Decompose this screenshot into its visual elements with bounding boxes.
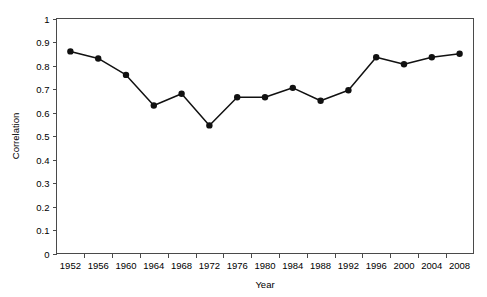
x-tick-label: 1972	[199, 260, 220, 271]
data-point	[456, 51, 462, 57]
x-tick-label: 1960	[115, 260, 136, 271]
x-tick-label: 2008	[449, 260, 470, 271]
y-tick-label: 0.4	[36, 155, 49, 166]
data-point	[178, 91, 184, 97]
x-tick-label: 1992	[338, 260, 359, 271]
x-tick-label: 1968	[171, 260, 192, 271]
chart-canvas: 00.10.20.30.40.50.60.70.80.91 1952195619…	[0, 0, 487, 297]
data-point	[401, 61, 407, 67]
y-tick-label: 0.7	[36, 84, 49, 95]
x-tick-label: 1956	[88, 260, 109, 271]
x-tick-label: 1988	[310, 260, 331, 271]
x-axis-title: Year	[255, 279, 274, 290]
data-point	[67, 48, 73, 54]
data-point	[317, 98, 323, 104]
x-axis-tick-labels: 1952195619601964196819721976198019841988…	[60, 260, 470, 271]
data-point	[123, 72, 129, 78]
data-point	[262, 94, 268, 100]
y-axis-title: Correlation	[10, 113, 21, 159]
x-tick-label: 1996	[366, 260, 387, 271]
data-point	[151, 102, 157, 108]
y-tick-label: 0.5	[36, 131, 49, 142]
y-tick-label: 1	[44, 14, 49, 25]
correlation-by-year-chart: 00.10.20.30.40.50.60.70.80.91 1952195619…	[0, 0, 487, 297]
chart-background	[0, 0, 487, 297]
data-point	[95, 55, 101, 61]
y-tick-label: 0.9	[36, 37, 49, 48]
y-tick-label: 0.1	[36, 225, 49, 236]
data-point	[373, 54, 379, 60]
data-point	[429, 54, 435, 60]
y-tick-label: 0.6	[36, 108, 49, 119]
x-tick-label: 2004	[421, 260, 442, 271]
data-point	[206, 122, 212, 128]
y-tick-label: 0.3	[36, 178, 49, 189]
y-tick-label: 0.8	[36, 61, 49, 72]
x-tick-label: 1964	[143, 260, 164, 271]
data-point	[290, 85, 296, 91]
x-tick-label: 1980	[254, 260, 275, 271]
x-tick-label: 1952	[60, 260, 81, 271]
y-tick-label: 0	[44, 249, 49, 260]
x-tick-label: 2000	[393, 260, 414, 271]
x-tick-label: 1976	[227, 260, 248, 271]
y-tick-label: 0.2	[36, 202, 49, 213]
x-tick-label: 1984	[282, 260, 303, 271]
data-point	[234, 94, 240, 100]
data-point	[345, 87, 351, 93]
